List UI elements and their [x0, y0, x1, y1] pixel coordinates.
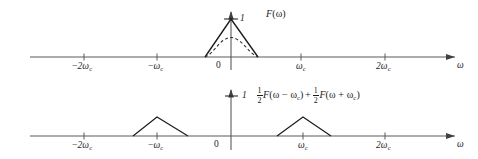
bottom-xtick-label-minus-wc: −ωc — [148, 141, 163, 152]
top-xtick-label-minus-2wc: −2ωc — [72, 62, 92, 73]
bottom-xtick-label-plus-2wc: 2ωc — [376, 141, 391, 152]
bottom-xtick-label-plus-wc: ωc — [298, 141, 308, 152]
top-xtick-label-plus-wc: ωc — [296, 62, 306, 73]
top-x-axis-label: ω — [457, 61, 464, 71]
bottom-xtick-label-minus-2wc: −2ωc — [72, 141, 92, 152]
top-origin-label: 0 — [216, 61, 221, 71]
top-xtick-label-minus-wc: −ωc — [148, 62, 163, 73]
bottom-x-axis-arrowhead — [446, 133, 455, 139]
figure-canvas — [0, 0, 478, 159]
bottom-left-triangle-curve — [133, 117, 188, 136]
formula-fraction-two: 12 — [313, 87, 319, 105]
formula-fraction-one: 12 — [257, 87, 263, 105]
bottom-right-triangle-curve — [277, 117, 331, 136]
bottom-x-axis-label: ω — [457, 140, 464, 150]
top-plot-title: F(ω) — [266, 9, 286, 19]
top-x-axis-arrowhead — [446, 54, 455, 60]
bottom-origin-label: 0 — [214, 140, 219, 150]
bottom-peak-value-label: 1 — [242, 91, 247, 101]
bottom-plot-formula: 12F(ω − ωc)+12F(ω + ωc) — [256, 87, 360, 105]
top-xtick-label-plus-2wc: 2ωc — [376, 62, 391, 73]
figure-container: 1 F(ω) 0 −2ωc −ωc ωc 2ωc ω 1 12F(ω − ωc)… — [0, 0, 478, 159]
top-peak-value-label: 1 — [240, 14, 245, 24]
